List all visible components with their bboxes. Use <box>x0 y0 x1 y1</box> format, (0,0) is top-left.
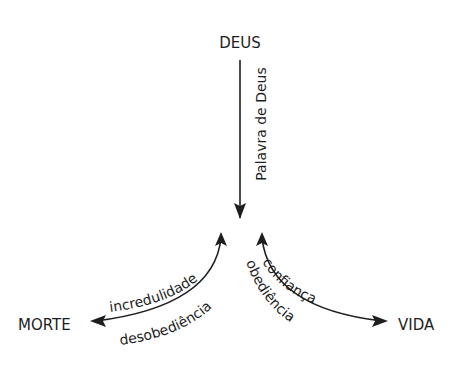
node-deus: DEUS <box>219 34 261 52</box>
arrowhead-left-up <box>215 232 227 246</box>
label-palavra-de-deus: Palavra de Deus <box>253 67 269 180</box>
arrowhead-vida <box>372 315 388 327</box>
node-morte: MORTE <box>18 316 71 334</box>
arrowhead-morte <box>90 315 106 327</box>
node-vida: VIDA <box>398 316 435 334</box>
diagram-canvas: DEUS Palavra de Deus incredulidade desob… <box>0 0 468 369</box>
arrowhead-right-up <box>256 232 268 246</box>
